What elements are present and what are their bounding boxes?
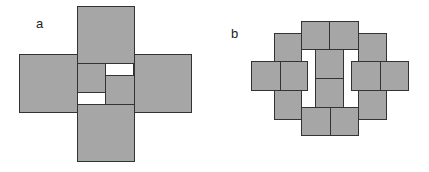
figure-a-center-upper-left-square [77,63,106,93]
figure-a-right-square [134,54,192,113]
diagram-canvas: a b [0,0,429,172]
figure-b-left-inner-square [280,61,308,91]
figure-a-left-square [19,54,78,113]
figure-a-center-lower-right-square [105,75,135,105]
figure-a-bottom-square [77,104,135,162]
figure-a-center-upper-right-gap [105,63,134,76]
figure-a-label: a [36,16,43,31]
figure-b-center-upper-square [315,49,344,79]
figure-b-top-right-square [329,21,359,50]
figure-b-right-inner-square [351,61,381,91]
figure-b-left-outer-square [251,61,281,91]
figure-b-bottom-left-square [301,107,331,136]
figure-a-top-square [77,6,135,64]
figure-b-bottom-right-square [330,107,359,136]
figure-a-center-lower-left-gap [77,92,106,105]
figure-b-label: b [231,26,238,41]
figure-b-center-lower-square [315,78,344,108]
figure-b-right-outer-square [380,61,409,91]
figure-b-top-left-square [301,21,330,50]
